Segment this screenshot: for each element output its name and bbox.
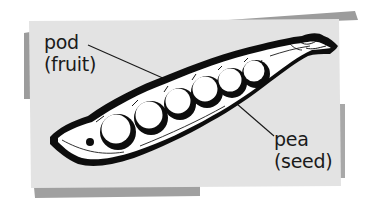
pea-1 — [100, 114, 136, 150]
pea-description: (seed) — [274, 150, 332, 172]
pod-label: pod (fruit) — [44, 31, 96, 75]
pod-term: pod — [44, 31, 96, 53]
pea-label: pea (seed) — [274, 128, 332, 172]
pea-6 — [242, 60, 270, 88]
pod-description: (fruit) — [44, 53, 96, 75]
pea-7 — [86, 138, 94, 146]
pea-2 — [134, 101, 168, 135]
pea-term: pea — [274, 128, 332, 150]
pea-pod-diagram: pod (fruit) pea (seed) — [0, 0, 384, 206]
